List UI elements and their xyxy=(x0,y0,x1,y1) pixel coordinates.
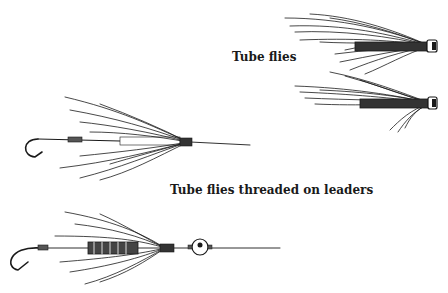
hook xyxy=(11,248,40,270)
threaded-fly-plain xyxy=(26,97,250,180)
tube-fly-upper xyxy=(285,14,437,74)
hook xyxy=(26,139,42,157)
tube-fly-lower xyxy=(295,72,437,132)
illustration-canvas xyxy=(0,0,448,293)
leader-line xyxy=(190,142,250,145)
threaded-fly-bead xyxy=(11,212,280,284)
